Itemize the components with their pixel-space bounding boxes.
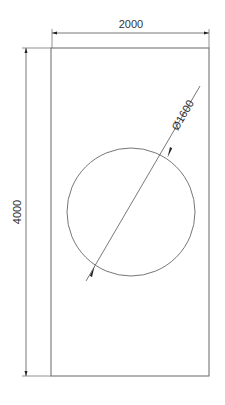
technical-drawing: 2000 4000 Ø1600 bbox=[0, 0, 225, 405]
height-label: 4000 bbox=[11, 200, 23, 224]
diameter-dimension: Ø1600 bbox=[86, 86, 200, 281]
hole-circle bbox=[67, 148, 195, 276]
diameter-arrow-upper bbox=[168, 147, 173, 157]
diameter-label: Ø1600 bbox=[169, 98, 196, 133]
width-label: 2000 bbox=[119, 18, 143, 30]
plate-outline bbox=[51, 48, 209, 376]
diameter-arrow-lower bbox=[90, 267, 95, 277]
height-dimension: 4000 bbox=[11, 48, 51, 376]
width-dimension: 2000 bbox=[52, 18, 209, 48]
